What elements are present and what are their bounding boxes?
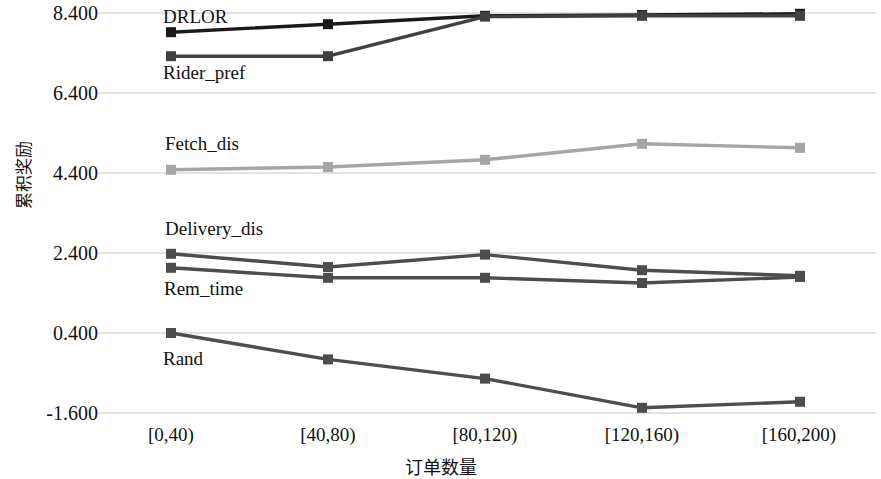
- data-point-marker: [323, 273, 333, 283]
- x-tick-label: [0,40): [91, 424, 251, 446]
- data-point-marker: [323, 19, 333, 29]
- data-point-marker: [323, 354, 333, 364]
- series-label-drlor: DRLOR: [163, 6, 227, 28]
- x-tick-label: [120,160): [562, 424, 722, 446]
- x-tick-label: [80,120): [405, 424, 565, 446]
- data-point-marker: [166, 27, 176, 37]
- data-point-marker: [480, 374, 490, 384]
- data-point-marker: [795, 397, 805, 407]
- data-point-marker: [480, 155, 490, 165]
- data-point-marker: [795, 143, 805, 153]
- series-label-rem-time: Rem_time: [164, 278, 243, 300]
- series-line-rand: [171, 333, 800, 408]
- data-point-marker: [166, 165, 176, 175]
- plot-area: [0, 0, 881, 479]
- x-axis-title: 订单数量: [0, 453, 881, 479]
- data-point-marker: [166, 328, 176, 338]
- data-point-marker: [637, 11, 647, 21]
- data-point-marker: [795, 272, 805, 282]
- series-line-rider-pref: [171, 16, 800, 56]
- data-point-marker: [637, 139, 647, 149]
- line-chart: 累积奖励 8.400 6.400 4.400 2.400 0.400 -1.60…: [0, 0, 881, 479]
- series-label-delivery-dis: Delivery_dis: [165, 218, 263, 240]
- series-label-rand: Rand: [163, 348, 203, 370]
- data-point-marker: [637, 403, 647, 413]
- data-point-marker: [323, 262, 333, 272]
- data-point-marker: [795, 11, 805, 21]
- data-point-marker: [480, 250, 490, 260]
- data-point-marker: [166, 249, 176, 259]
- data-point-marker: [637, 265, 647, 275]
- data-point-marker: [637, 278, 647, 288]
- series-label-rider-pref: Rider_pref: [163, 62, 245, 84]
- data-point-marker: [480, 12, 490, 22]
- data-point-marker: [166, 51, 176, 61]
- data-point-marker: [323, 51, 333, 61]
- x-tick-label: [40,80): [248, 424, 408, 446]
- x-tick-label: [160,200): [719, 424, 879, 446]
- data-point-marker: [323, 162, 333, 172]
- data-point-marker: [480, 273, 490, 283]
- data-point-marker: [166, 263, 176, 273]
- series-label-fetch-dis: Fetch_dis: [165, 133, 239, 155]
